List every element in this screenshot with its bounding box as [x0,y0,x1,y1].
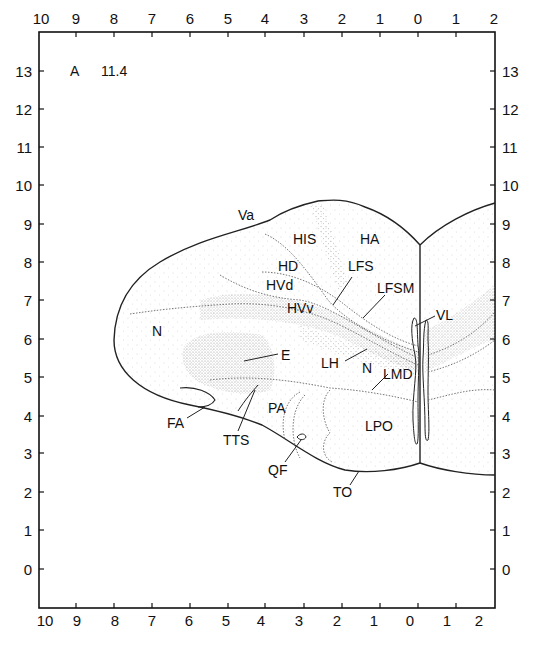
label-tts: TTS [223,432,249,448]
label-hd: HD [278,258,298,274]
right-tick-label: 1 [502,522,510,539]
label-lfs: LFS [348,258,374,274]
top-tick-label: 10 [33,10,50,27]
top-tick-label: 3 [300,10,308,27]
bottom-tick-label: 2 [475,612,483,629]
right-tick-label: 7 [502,292,510,309]
left-tick-label: 6 [24,331,32,348]
top-tick-label: 5 [224,10,232,27]
to-leader [350,471,359,485]
bottom-tick-label: 0 [406,612,414,629]
plate-letter: A [70,63,80,79]
top-tick-label: 8 [110,10,118,27]
top-tick-label: 6 [186,10,194,27]
label-his: HIS [293,231,316,247]
bottom-axis: 10 9 8 7 6 5 4 3 2 1 0 1 2 [37,612,484,629]
bottom-tick-label: 8 [111,612,119,629]
top-tick-label: 1 [452,10,460,27]
top-axis: 10 9 8 7 6 5 4 3 2 1 0 1 2 [33,10,499,27]
left-tick-label: 9 [24,216,32,233]
label-n-left: N [152,323,162,339]
left-tick-label: 12 [15,101,32,118]
left-tick-label: 4 [24,408,32,425]
bottom-tick-label: 7 [148,612,156,629]
bottom-tick-label: 6 [185,612,193,629]
right-tick-label: 11 [502,139,518,156]
left-tick-label: 11 [16,139,32,156]
top-tick-label: 2 [490,10,498,27]
bottom-tick-label: 4 [257,612,265,629]
label-pa: PA [268,400,286,416]
top-tick-label: 4 [261,10,269,27]
bottom-tick-label: 9 [73,612,81,629]
bottom-tick-label: 2 [333,612,341,629]
label-lpo: LPO [365,418,393,434]
bottom-tick-label: 10 [37,612,54,629]
right-tick-label: 6 [502,331,510,348]
right-tick-label: 13 [502,63,519,80]
label-ha: HA [360,231,380,247]
label-vl: VL [436,307,453,323]
left-tick-label: 3 [24,445,32,462]
label-hvv: HVv [287,300,313,316]
left-axis: 13 12 11 10 9 8 7 6 5 4 3 2 1 0 [15,63,32,578]
left-tick-label: 8 [24,254,32,271]
label-hvd: HVd [266,277,293,293]
right-hemisphere-stipple [420,200,500,480]
left-tick-label: 2 [24,484,32,501]
right-tick-label: 4 [502,408,510,425]
fa-leader [187,407,205,418]
label-lmd: LMD [383,366,413,382]
left-hemisphere-stipple [100,190,430,480]
label-qf: QF [268,462,287,478]
label-fa: FA [167,415,185,431]
bottom-tick-label: 1 [370,612,378,629]
bottom-tick-label: 5 [222,612,230,629]
brain-atlas-diagram: 10 9 8 7 6 5 4 3 2 1 0 1 2 10 9 8 7 6 5 … [0,0,538,645]
plate-number: 11.4 [101,63,127,79]
right-tick-label: 3 [502,445,510,462]
top-tick-label: 9 [72,10,80,27]
right-tick-label: 10 [502,177,519,194]
left-tick-label: 1 [24,522,32,539]
label-n-mid: N [362,360,372,376]
label-va: Va [238,207,254,223]
bottom-tick-label: 1 [443,612,451,629]
right-tick-label: 12 [502,101,519,118]
label-to: TO [333,484,352,500]
right-axis: 13 12 11 10 9 8 7 6 5 4 3 2 1 0 [502,63,519,578]
top-tick-label: 7 [148,10,156,27]
left-tick-label: 0 [24,561,32,578]
top-tick-label: 2 [338,10,346,27]
left-tick-label: 10 [15,177,32,194]
right-tick-label: 2 [502,484,510,501]
right-tick-label: 5 [502,369,510,386]
right-tick-label: 0 [502,561,510,578]
right-tick-label: 9 [502,216,510,233]
right-tick-label: 8 [502,254,510,271]
top-tick-label: 0 [414,10,422,27]
label-lfsm: LFSM [377,280,414,296]
top-tick-label: 1 [376,10,384,27]
bottom-tick-label: 3 [295,612,303,629]
left-tick-label: 5 [24,369,32,386]
left-tick-label: 7 [24,292,32,309]
label-e: E [281,347,290,363]
left-tick-label: 13 [15,63,32,80]
label-lh: LH [321,355,339,371]
